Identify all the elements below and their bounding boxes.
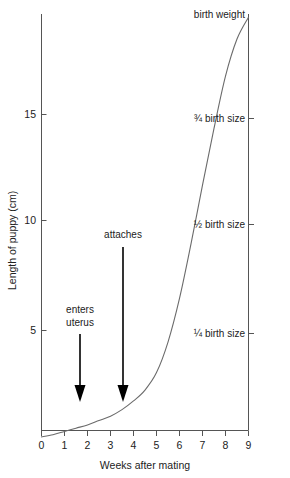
y-tick-label-10: 10 xyxy=(24,214,36,226)
annotation-enters-uterus-arrow-head xyxy=(75,385,86,402)
y-axis-ticks xyxy=(42,115,47,331)
x-tick-label-5: 5 xyxy=(154,439,160,451)
label-half-birth-size: ½ birth size xyxy=(194,219,246,230)
y-tick-label-5: 5 xyxy=(30,324,36,336)
x-tick-label-9: 9 xyxy=(246,439,252,451)
x-tick-label-1: 1 xyxy=(62,439,68,451)
x-tick-label-8: 8 xyxy=(223,439,229,451)
x-tick-label-7: 7 xyxy=(200,439,206,451)
growth-chart-figure: 15 10 5 Length of puppy (cm) 0 1 2 3 4 5 xyxy=(0,0,290,478)
y-tick-label-15: 15 xyxy=(24,108,36,120)
annotation-enters-uterus-label-line1: enters xyxy=(66,304,94,315)
chart-svg: 15 10 5 Length of puppy (cm) 0 1 2 3 4 5 xyxy=(0,0,290,478)
annotation-attaches-label: attaches xyxy=(104,229,142,240)
annotation-enters-uterus: enters uterus xyxy=(66,304,94,402)
y-axis-title: Length of puppy (cm) xyxy=(6,191,18,290)
x-tick-label-6: 6 xyxy=(177,439,183,451)
x-axis-ticks xyxy=(42,431,249,437)
x-axis-title: Weeks after mating xyxy=(100,459,190,471)
x-tick-label-2: 2 xyxy=(85,439,91,451)
label-birth-weight: birth weight xyxy=(194,9,245,20)
x-axis-tick-labels: 0 1 2 3 4 5 6 7 8 9 xyxy=(39,439,252,451)
y-axis-tick-labels: 15 10 5 xyxy=(24,108,36,336)
annotation-attaches-arrow-head xyxy=(118,385,129,402)
x-tick-label-4: 4 xyxy=(131,439,137,451)
label-quarter-birth-size: ¼ birth size xyxy=(194,328,246,339)
x-tick-label-3: 3 xyxy=(108,439,114,451)
label-three-quarter-birth-size: ¾ birth size xyxy=(194,113,246,124)
x-tick-label-0: 0 xyxy=(39,439,45,451)
annotation-enters-uterus-label-line2: uterus xyxy=(66,317,94,328)
annotation-attaches: attaches xyxy=(104,229,142,402)
right-marker-ticks xyxy=(249,119,255,334)
